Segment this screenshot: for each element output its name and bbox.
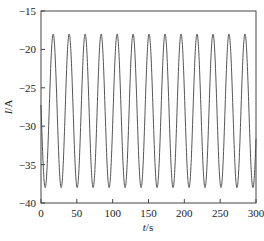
line-chart: 050100150200250300 −40−35−30−25−20−15 t/… [0, 0, 264, 241]
x-tick-label: 200 [176, 207, 193, 219]
x-axis-ticks: 050100150200250300 [38, 199, 264, 219]
y-axis-label: I/A [2, 100, 14, 116]
x-tick-label: 150 [140, 207, 157, 219]
y-tick-label: −15 [19, 5, 37, 17]
x-tick-label: 0 [38, 207, 44, 219]
y-tick-label: −35 [19, 159, 37, 171]
current-series-line [41, 34, 256, 188]
y-tick-label: −25 [19, 82, 37, 94]
x-tick-label: 100 [104, 207, 121, 219]
y-tick-label: −20 [19, 43, 37, 55]
current-waveform [41, 34, 256, 188]
y-tick-label: −30 [19, 120, 37, 132]
x-tick-label: 50 [71, 207, 83, 219]
x-axis-label: t/s [143, 221, 153, 233]
x-tick-label: 300 [248, 207, 264, 219]
x-tick-label: 250 [212, 207, 229, 219]
y-tick-label: −40 [19, 197, 37, 209]
